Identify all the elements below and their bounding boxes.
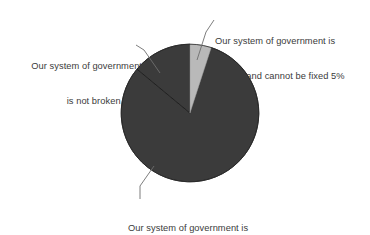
pie-label-cannot-be-fixed-line1: Our system of government is <box>215 36 367 48</box>
pie-chart-figure: Our system of government is not broken 1… <box>0 0 370 235</box>
pie-label-cannot-be-fixed: Our system of government is broken and c… <box>215 13 367 106</box>
pie-label-cannot-be-fixed-line2: broken and cannot be fixed 5% <box>215 71 367 83</box>
pie-label-can-be-fixed-line1: Our system of government is <box>128 223 288 235</box>
pie-label-can-be-fixed: Our system of government is broken but c… <box>128 200 288 235</box>
pie-label-not-broken: Our system of government is not broken 1… <box>12 38 142 131</box>
pie-label-not-broken-line1: Our system of government <box>12 61 142 73</box>
pie-label-not-broken-line2: is not broken 14% <box>12 96 142 108</box>
leader-line-can-be-fixed <box>140 166 154 199</box>
